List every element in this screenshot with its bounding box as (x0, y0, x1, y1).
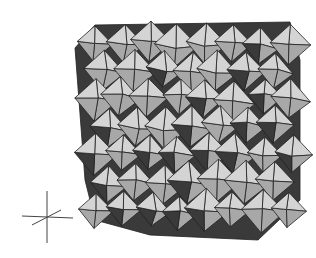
figure (0, 0, 316, 258)
polyhedra-structure (0, 0, 316, 258)
axes-indicator-icon (22, 191, 73, 243)
